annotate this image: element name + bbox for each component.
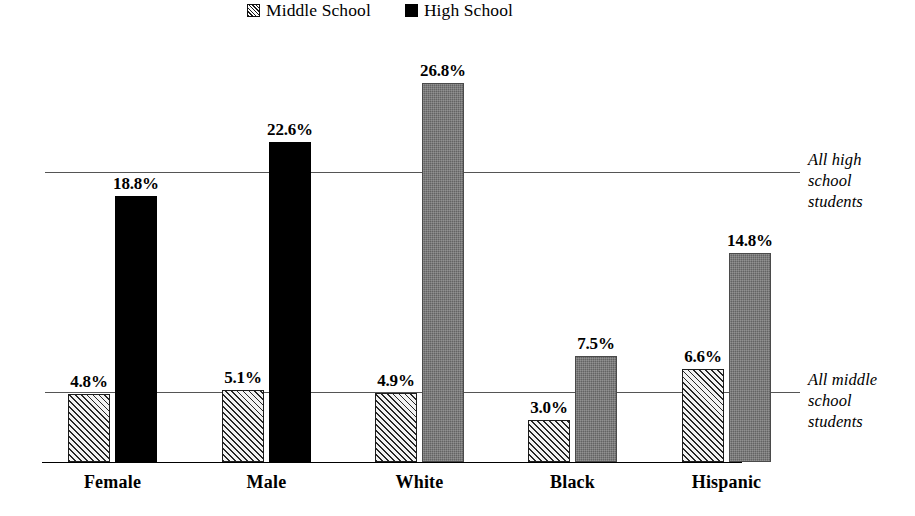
value-label-high-school-hispanic: 14.8% bbox=[713, 231, 787, 251]
bar-middle-school-female bbox=[68, 394, 110, 462]
category-label-female: Female bbox=[44, 472, 181, 493]
category-label-hispanic: Hispanic bbox=[658, 472, 795, 493]
bar-middle-school-male bbox=[222, 390, 264, 462]
bar-middle-school-black bbox=[528, 420, 570, 462]
bar-middle-school-hispanic bbox=[682, 369, 724, 462]
bar-middle-school-white bbox=[375, 393, 417, 462]
value-label-high-school-male: 22.6% bbox=[253, 120, 327, 140]
value-label-high-school-black: 7.5% bbox=[559, 334, 633, 354]
value-label-high-school-white: 26.8% bbox=[406, 61, 480, 81]
value-label-high-school-female: 18.8% bbox=[99, 174, 173, 194]
bar-high-school-black bbox=[575, 356, 617, 462]
bar-high-school-white bbox=[422, 83, 464, 462]
bar-high-school-male bbox=[269, 142, 311, 462]
bar-high-school-female bbox=[115, 196, 157, 462]
annotation-all-high-school-students: All high school students bbox=[808, 150, 863, 212]
bar-chart-plot-area: All high school students All middle scho… bbox=[0, 0, 915, 516]
category-label-white: White bbox=[351, 472, 488, 493]
category-label-male: Male bbox=[198, 472, 335, 493]
category-label-black: Black bbox=[504, 472, 641, 493]
annotation-all-middle-school-students: All middle school students bbox=[808, 370, 877, 432]
bar-high-school-hispanic bbox=[729, 253, 771, 462]
x-axis-line bbox=[42, 462, 742, 463]
